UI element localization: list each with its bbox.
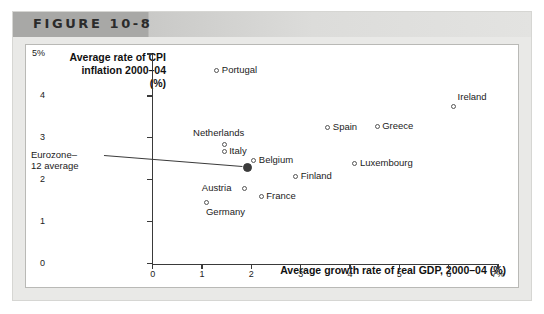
y-axis-title-line-2: inflation 2000–04 — [48, 64, 166, 77]
y-tick-label: 0 — [5, 258, 45, 268]
data-point-label-portugal: Portugal — [222, 64, 257, 75]
data-point-belgium[interactable] — [251, 158, 256, 163]
data-point-portugal[interactable] — [214, 68, 219, 73]
data-point-label-austria: Austria — [202, 182, 232, 193]
data-point-finland[interactable] — [293, 174, 298, 179]
data-point-label-france: France — [266, 190, 296, 201]
y-tick-label: 3 — [5, 132, 45, 142]
y-tick-mark — [147, 53, 152, 54]
data-point-label-finland: Finland — [301, 170, 332, 181]
y-tick-label: 2 — [5, 174, 45, 184]
y-tick-mark — [147, 221, 152, 222]
data-point-label-spain: Spain — [333, 121, 357, 132]
x-tick-label: 1 — [187, 269, 217, 279]
x-tick-label: 4 — [335, 269, 365, 279]
data-point-france[interactable] — [259, 194, 264, 199]
y-tick-label: 4 — [5, 90, 45, 100]
y-axis-title-line-3: (%) — [48, 77, 166, 90]
eurozone-average-annotation: Eurozone– 12 average — [31, 149, 79, 172]
data-point-label-ireland: Ireland — [458, 91, 487, 102]
data-point-label-belgium: Belgium — [259, 154, 293, 165]
data-point-label-netherlands: Netherlands — [193, 127, 244, 138]
x-tick-label: 6 — [434, 269, 464, 279]
figure-container: FIGURE 10-8 Average rate of CPI inflatio… — [0, 0, 544, 314]
data-point-netherlands[interactable] — [222, 142, 227, 147]
data-point-eurozone-12-average[interactable] — [243, 163, 252, 172]
y-tick-mark — [147, 179, 152, 180]
x-tick-label: 2 — [236, 269, 266, 279]
data-point-spain[interactable] — [325, 125, 330, 130]
data-point-label-germany: Germany — [206, 206, 245, 217]
data-point-germany[interactable] — [204, 200, 209, 205]
y-axis-line — [152, 54, 153, 264]
x-tick-label: 0 — [138, 269, 168, 279]
x-tick-label: 7% — [483, 269, 513, 279]
data-point-label-italy: Italy — [229, 145, 246, 156]
data-point-greece[interactable] — [375, 124, 380, 129]
data-point-label-luxembourg: Luxembourg — [360, 157, 413, 168]
plot-area: Average rate of CPI inflation 2000–04 (%… — [25, 44, 519, 288]
figure-number-label: FIGURE 10-8 — [33, 16, 153, 31]
y-tick-label: 1 — [5, 216, 45, 226]
x-axis-line — [152, 264, 498, 265]
y-tick-mark — [147, 95, 152, 96]
data-point-italy[interactable] — [222, 149, 227, 154]
data-point-austria[interactable] — [242, 186, 247, 191]
y-tick-label: 5% — [5, 48, 45, 58]
data-point-luxembourg[interactable] — [352, 161, 357, 166]
data-point-label-greece: Greece — [382, 120, 413, 131]
data-point-ireland[interactable] — [451, 104, 456, 109]
eurozone-annot-line-2: 12 average — [31, 160, 79, 172]
x-tick-label: 3 — [286, 269, 316, 279]
y-tick-mark — [147, 137, 152, 138]
x-tick-label: 5 — [384, 269, 414, 279]
y-axis-title: Average rate of CPI inflation 2000–04 (%… — [48, 51, 166, 90]
eurozone-annot-line-1: Eurozone– — [31, 149, 79, 161]
